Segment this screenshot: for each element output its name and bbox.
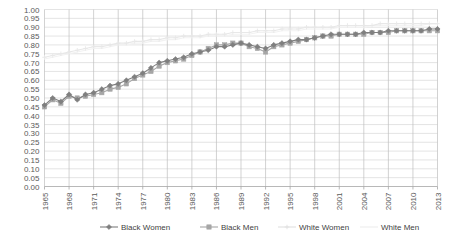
- data-point-marker: [427, 21, 431, 25]
- y-tick-label: 0.70: [24, 59, 40, 68]
- x-tick-label: 1989: [237, 192, 246, 210]
- legend-swatch-marker: [285, 225, 289, 229]
- y-axis-tick-labels: 0.000.050.100.150.200.250.300.350.400.45…: [24, 6, 40, 192]
- axis-lines: [45, 187, 438, 190]
- y-tick-label: 0.15: [24, 156, 40, 165]
- legend-label: White Men: [381, 223, 419, 232]
- y-tick-label: 0.10: [24, 165, 40, 174]
- legend-swatch-marker: [207, 225, 211, 229]
- legend-label: Black Women: [121, 223, 170, 232]
- chart-legend: Black WomenBlack MenWhite WomenWhite Men: [100, 223, 419, 232]
- y-tick-label: 0.00: [24, 183, 40, 192]
- x-tick-label: 1986: [212, 192, 221, 210]
- data-point-marker: [435, 21, 439, 25]
- legend-item-white-men[interactable]: White Men: [360, 223, 419, 232]
- x-axis-tick-labels: 1965196819711974197719801983198619891992…: [41, 192, 443, 210]
- x-tick-label: 1992: [262, 192, 271, 210]
- x-tick-label: 1971: [90, 192, 99, 210]
- y-tick-label: 0.95: [24, 14, 40, 23]
- y-tick-label: 0.40: [24, 112, 40, 121]
- y-tick-label: 0.25: [24, 138, 40, 147]
- line-chart-svg: 0.000.050.100.150.200.250.300.350.400.45…: [0, 0, 450, 244]
- legend-item-black-women[interactable]: Black Women: [100, 223, 170, 232]
- x-tick-label: 1974: [114, 192, 123, 210]
- x-tick-label: 1980: [163, 192, 172, 210]
- y-tick-label: 0.80: [24, 41, 40, 50]
- x-tick-label: 1965: [41, 192, 50, 210]
- y-tick-label: 0.65: [24, 67, 40, 76]
- y-tick-label: 1.00: [24, 6, 40, 15]
- legend-label: Black Men: [221, 223, 258, 232]
- x-tick-label: 1977: [139, 192, 148, 210]
- y-tick-label: 0.75: [24, 50, 40, 59]
- x-tick-label: 2013: [434, 192, 443, 210]
- y-tick-label: 0.85: [24, 32, 40, 41]
- y-tick-label: 0.90: [24, 23, 40, 32]
- x-tick-label: 2004: [360, 192, 369, 210]
- legend-label: White Women: [299, 223, 349, 232]
- x-tick-label: 1968: [65, 192, 74, 210]
- x-tick-label: 1995: [286, 192, 295, 210]
- y-tick-label: 0.50: [24, 94, 40, 103]
- x-tick-label: 2010: [409, 192, 418, 210]
- chart-container: 0.000.050.100.150.200.250.300.350.400.45…: [0, 0, 450, 244]
- y-tick-label: 0.05: [24, 174, 40, 183]
- y-tick-label: 0.35: [24, 121, 40, 130]
- y-tick-label: 0.20: [24, 147, 40, 156]
- x-tick-label: 1998: [311, 192, 320, 210]
- legend-swatch-marker: [106, 224, 111, 229]
- y-tick-label: 0.30: [24, 129, 40, 138]
- y-tick-label: 0.45: [24, 103, 40, 112]
- x-tick-label: 2001: [335, 192, 344, 210]
- y-tick-label: 0.60: [24, 76, 40, 85]
- legend-item-black-men[interactable]: Black Men: [200, 223, 258, 232]
- legend-item-white-women[interactable]: White Women: [278, 223, 349, 232]
- x-tick-label: 2007: [384, 192, 393, 210]
- plot-area: 0.000.050.100.150.200.250.300.350.400.45…: [0, 0, 450, 244]
- x-tick-label: 1983: [188, 192, 197, 210]
- y-tick-label: 0.55: [24, 85, 40, 94]
